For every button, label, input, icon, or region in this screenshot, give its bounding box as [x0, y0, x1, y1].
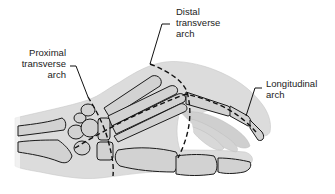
- label-longitudinal-arch: Longitudinal arch: [266, 78, 317, 100]
- hand-arches-diagram: Proximal transverse arch Distal transver…: [0, 0, 335, 194]
- label-text: arch: [176, 28, 220, 39]
- label-text: Proximal: [4, 47, 66, 58]
- label-text: transverse: [176, 17, 220, 28]
- label-text: Distal: [176, 6, 220, 17]
- proximal-leader: [70, 66, 88, 97]
- label-text: transverse: [4, 58, 66, 69]
- distal-leader: [150, 24, 170, 64]
- label-proximal-transverse-arch: Proximal transverse arch: [4, 47, 66, 80]
- label-text: arch: [266, 89, 317, 100]
- label-distal-transverse-arch: Distal transverse arch: [176, 6, 220, 39]
- label-text: Longitudinal: [266, 78, 317, 89]
- label-text: arch: [4, 69, 66, 80]
